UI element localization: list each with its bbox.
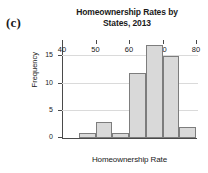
y-tick-label: 5	[49, 105, 53, 114]
histogram-figure: (c) Homeownership Rates by States, 2013 …	[0, 0, 208, 173]
chart-title: Homeownership Rates by States, 2013	[52, 7, 202, 29]
histogram-bar	[79, 133, 96, 138]
panel-label: (c)	[6, 16, 21, 29]
x-tick: 50	[96, 40, 97, 44]
y-tick-label: 10	[45, 78, 53, 87]
y-tick: 10	[58, 83, 62, 84]
histogram-bar	[96, 122, 113, 138]
x-axis-label: Homeownership Rate	[62, 155, 197, 165]
histogram-bar	[112, 133, 129, 138]
x-axis-line	[62, 138, 197, 139]
y-tick-label: 0	[49, 132, 53, 141]
chart-title-line-2: States, 2013	[52, 18, 202, 29]
histogram-bar	[129, 73, 146, 138]
x-tick: 80	[196, 40, 197, 44]
y-tick: 0	[58, 137, 62, 138]
x-tick: 60	[129, 40, 130, 44]
y-axis-label: Frequency	[30, 52, 39, 87]
histogram-bar	[163, 56, 180, 138]
y-tick: 15	[58, 55, 62, 56]
x-tick: 40	[62, 40, 63, 44]
histogram-bar	[146, 45, 163, 138]
plot-area: 051015 4050607080	[62, 40, 196, 138]
y-tick-label: 15	[45, 50, 53, 59]
x-tick-label: 40	[58, 45, 66, 54]
histogram-bar	[179, 127, 196, 138]
y-tick: 5	[58, 110, 62, 111]
x-tick: 70	[163, 40, 164, 44]
chart-title-line-1: Homeownership Rates by	[52, 7, 202, 18]
x-tick-label: 80	[192, 45, 200, 54]
x-tick-label: 60	[125, 45, 133, 54]
x-tick-label: 50	[91, 45, 99, 54]
